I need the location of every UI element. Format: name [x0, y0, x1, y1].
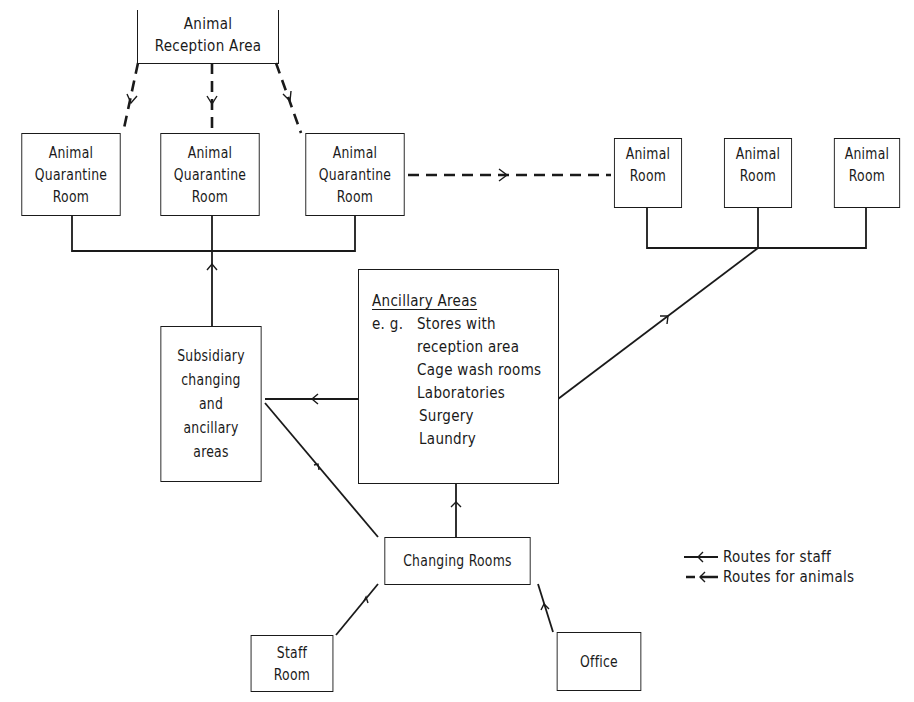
node-animal-room-3: Animal Room	[834, 138, 900, 208]
node-label-line: Animal	[626, 143, 671, 165]
node-label-line: Room	[192, 186, 228, 208]
node-label-line: Animal	[184, 13, 233, 35]
diagram-canvas: Animal Reception Area Animal Quarantine …	[0, 0, 914, 702]
node-quarantine-room-3: Animal Quarantine Room	[305, 133, 404, 216]
node-animal-room-1: Animal Room	[614, 138, 682, 208]
node-label-line: Animal	[333, 142, 378, 164]
ancillary-item: Laundry	[372, 428, 558, 451]
node-label-line: changing	[181, 368, 240, 392]
ancillary-item-row: e. g. Stores with	[372, 313, 558, 336]
node-label-line: areas	[193, 440, 229, 464]
legend-item-staff: Routes for staff	[682, 547, 854, 567]
legend-item-animals: Routes for animals	[682, 567, 854, 587]
node-label-line: and	[199, 392, 223, 416]
solid-arrow-icon	[682, 551, 720, 563]
arrowhead-staff	[314, 464, 319, 470]
node-label-line: Room	[337, 186, 373, 208]
ancillary-item: reception area	[372, 336, 558, 359]
node-label-line: Animal	[736, 143, 781, 165]
quarantine-collector	[72, 215, 355, 251]
node-label-line: Room	[274, 664, 310, 686]
node-subsidiary-changing: Subsidiary changing and ancillary areas	[160, 326, 261, 482]
legend: Routes for staff Routes for animals	[682, 547, 854, 587]
node-label-line: Office	[580, 651, 618, 673]
node-label-line: Quarantine	[319, 164, 391, 186]
node-label-line: Room	[849, 165, 885, 187]
ancillary-item: Stores with	[417, 313, 496, 336]
node-quarantine-room-2: Animal Quarantine Room	[160, 133, 259, 216]
legend-label: Routes for staff	[723, 547, 831, 567]
legend-label: Routes for animals	[723, 567, 854, 587]
node-label-line: Staff	[277, 642, 307, 664]
node-label-line: Quarantine	[35, 164, 107, 186]
node-label-line: Room	[630, 165, 666, 187]
route-reception-to-quarantine-3	[276, 63, 301, 133]
animal-room-collector	[647, 207, 866, 248]
node-ancillary-areas: Ancillary Areas e. g. Stores with recept…	[358, 269, 559, 484]
route-staff-room-to-changing	[336, 584, 378, 635]
node-animal-reception-area: Animal Reception Area	[137, 10, 279, 64]
node-label-line: Changing Rooms	[403, 550, 512, 572]
dashed-arrow-icon	[682, 571, 720, 583]
ancillary-item: Cage wash rooms	[372, 359, 558, 382]
node-animal-room-2: Animal Room	[724, 138, 792, 208]
node-label-line: ancillary	[183, 416, 238, 440]
node-label-line: Quarantine	[174, 164, 246, 186]
eg-label: e. g.	[372, 313, 417, 336]
node-quarantine-room-1: Animal Quarantine Room	[21, 133, 120, 216]
node-label-line: Subsidiary	[177, 344, 245, 368]
ancillary-title: Ancillary Areas	[372, 290, 558, 313]
node-label-line: Reception Area	[155, 35, 262, 57]
node-staff-room: Staff Room	[251, 635, 334, 692]
arrowhead-animal	[283, 91, 291, 101]
node-changing-rooms: Changing Rooms	[384, 537, 530, 585]
node-office: Office	[557, 632, 642, 691]
ancillary-item: Laboratories	[372, 382, 558, 405]
route-office-to-changing	[538, 584, 553, 632]
node-label-line: Room	[53, 186, 89, 208]
ancillary-item: Surgery	[372, 405, 558, 428]
node-label-line: Animal	[188, 142, 233, 164]
node-label-line: Animal	[845, 143, 890, 165]
node-label-line: Room	[740, 165, 776, 187]
node-label-line: Animal	[49, 142, 94, 164]
route-ancillary-to-animal-rooms	[558, 248, 758, 399]
